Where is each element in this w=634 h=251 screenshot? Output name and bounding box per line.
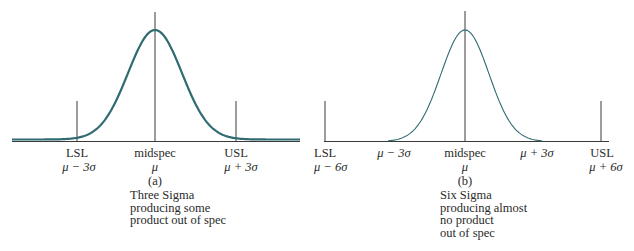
- panel-b-usl-label: USL: [590, 147, 614, 160]
- panel-a-midspec-value: μ: [152, 161, 158, 174]
- panel-b-description: Six Sigma producing almost no product ou…: [440, 189, 527, 239]
- panel-b-midspec-label: midspec: [444, 147, 486, 160]
- panel-a-description-line: Three Sigma: [130, 189, 226, 202]
- panel-b-plot: [324, 11, 609, 142]
- panel-b-description-line: out of spec: [440, 227, 527, 240]
- panel-b-lsl-value: μ − 6σ: [314, 161, 347, 174]
- panel-b-plus-3-sigma-value: μ + 3σ: [520, 147, 553, 160]
- panel-a-usl-value: μ + 3σ: [224, 161, 257, 174]
- panel-b-description-line: no product: [440, 214, 527, 227]
- panel-a-lsl-value: μ − 3σ: [62, 161, 95, 174]
- panel-a-midspec-label: midspec: [134, 147, 176, 160]
- panel-b-midspec-value: μ: [462, 161, 468, 174]
- panel-b-description-line: Six Sigma: [440, 189, 527, 202]
- panel-a-description-line: product out of spec: [130, 214, 226, 227]
- panel-a-description: Three Sigma producing some product out o…: [130, 189, 226, 227]
- panel-b-lsl-label: LSL: [314, 147, 336, 160]
- panel-b-usl-value: μ + 6σ: [589, 161, 622, 174]
- panel-a-normal-curve: [12, 30, 300, 140]
- panel-b-minus-3-sigma-value: μ − 3σ: [377, 147, 410, 160]
- panel-a-caption: (a): [148, 175, 162, 188]
- panel-a-usl-label: USL: [224, 147, 248, 160]
- panel-a-plot: [12, 12, 300, 142]
- panel-a-lsl-label: LSL: [66, 147, 88, 160]
- six-sigma-figure: [0, 0, 634, 251]
- panel-b-caption: (b): [458, 175, 473, 188]
